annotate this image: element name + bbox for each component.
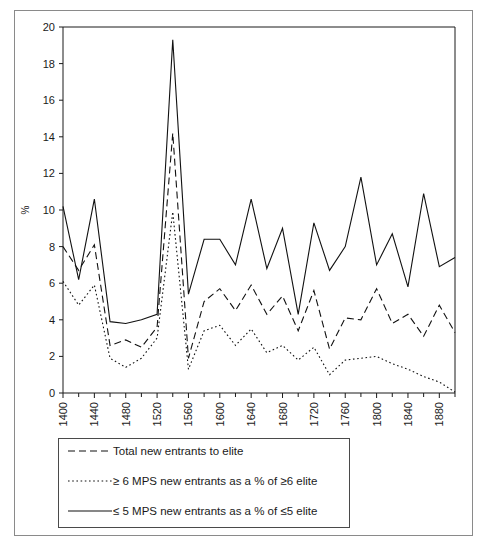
y-axis-title: % — [20, 205, 31, 214]
dashed-line-swatch — [67, 449, 113, 461]
y-tick-label: 12 — [43, 167, 55, 179]
legend-entry: ≤ 5 MPS new entrants as a % of ≤5 elite — [67, 505, 341, 521]
x-tick-label: 1400 — [57, 402, 69, 426]
y-axis-ticks — [59, 27, 63, 393]
y-tick-label: 4 — [49, 314, 55, 326]
legend-label: ≤ 5 MPS new entrants as a % of ≤5 elite — [113, 505, 341, 518]
x-axis-ticks — [63, 393, 455, 398]
plot-frame — [63, 27, 455, 393]
x-tick-label: 1720 — [308, 402, 320, 426]
legend-entry: ≥ 6 MPS new entrants as a % of ≥6 elite — [67, 475, 341, 491]
legend-entry: Total new entrants to elite — [67, 445, 341, 461]
x-axis-tick-labels: 1400144014801520156016001640168017201760… — [57, 402, 445, 426]
x-tick-label: 1440 — [88, 402, 100, 426]
x-tick-label: 1560 — [182, 402, 194, 426]
x-tick-label: 1600 — [214, 402, 226, 426]
dotted-line-swatch — [67, 479, 113, 491]
y-axis-tick-labels: 02468101214161820 — [43, 21, 55, 399]
y-tick-label: 20 — [43, 21, 55, 33]
x-tick-label: 1840 — [402, 402, 414, 426]
x-tick-label: 1520 — [151, 402, 163, 426]
chart-legend: Total new entrants to elite≥ 6 MPS new e… — [58, 438, 350, 528]
series-line-3 — [63, 40, 455, 324]
x-tick-label: 1680 — [277, 402, 289, 426]
x-tick-label: 1640 — [245, 402, 257, 426]
x-tick-label: 1880 — [433, 402, 445, 426]
x-tick-label: 1800 — [371, 402, 383, 426]
y-tick-label: 14 — [43, 131, 55, 143]
x-tick-label: 1760 — [339, 402, 351, 426]
y-tick-label: 8 — [49, 241, 55, 253]
series-line-2 — [63, 212, 455, 392]
y-tick-label: 16 — [43, 94, 55, 106]
legend-label: Total new entrants to elite — [113, 445, 341, 458]
solid-line-swatch — [67, 509, 113, 521]
y-tick-label: 2 — [49, 350, 55, 362]
y-tick-label: 0 — [49, 387, 55, 399]
x-tick-label: 1480 — [120, 402, 132, 426]
y-tick-label: 18 — [43, 58, 55, 70]
data-series-group — [63, 40, 455, 392]
y-tick-label: 10 — [43, 204, 55, 216]
legend-label: ≥ 6 MPS new entrants as a % of ≥6 elite — [113, 475, 341, 488]
y-tick-label: 6 — [49, 277, 55, 289]
